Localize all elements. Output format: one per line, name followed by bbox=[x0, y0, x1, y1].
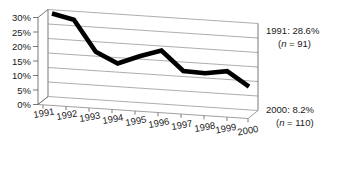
grid-line-20 bbox=[48, 39, 258, 53]
last-point-annotation-count: = 110) bbox=[284, 117, 313, 128]
depth-connector-top bbox=[38, 10, 48, 18]
x-tick-label-1996: 1996 bbox=[147, 115, 170, 130]
first-point-annotation: 1991: 28.6% (n = 91) bbox=[266, 25, 320, 49]
grid-line-30 bbox=[48, 10, 258, 24]
grid-line-5 bbox=[48, 82, 258, 96]
y-tick-label-20: 20% bbox=[12, 41, 32, 52]
x-tick-label-1999: 1999 bbox=[214, 121, 237, 136]
y-axis-tick-marks bbox=[33, 18, 38, 105]
x-tick-label-2000: 2000 bbox=[236, 123, 259, 138]
grid-line-0 bbox=[48, 97, 258, 111]
floor-right-edge bbox=[248, 111, 258, 119]
y-axis-tick-labels: 30% 25% 20% 15% 10% 5% 0% bbox=[12, 12, 32, 110]
x-tick-label-1995: 1995 bbox=[124, 113, 147, 128]
x-tick-label-1998: 1998 bbox=[193, 119, 216, 134]
y-tick-label-30: 30% bbox=[12, 12, 32, 23]
y-tick-label-0: 0% bbox=[17, 99, 31, 110]
first-point-annotation-line1: 1991: 28.6% bbox=[266, 25, 320, 36]
first-point-annotation-count: = 91) bbox=[286, 38, 311, 49]
x-axis-tick-labels: 1991 1992 1993 1994 1995 1996 1997 1998 … bbox=[32, 105, 259, 137]
last-point-annotation-line2: (n = 110) bbox=[276, 117, 314, 128]
y-tick-label-5: 5% bbox=[17, 85, 31, 96]
first-point-annotation-line2: (n = 91) bbox=[278, 38, 311, 49]
x-tick-label-1992: 1992 bbox=[55, 107, 78, 122]
x-tick-label-1994: 1994 bbox=[101, 111, 124, 126]
x-tick-label-1991: 1991 bbox=[32, 105, 55, 120]
y-tick-label-15: 15% bbox=[12, 56, 32, 67]
line-chart-svg: 30% 25% 20% 15% 10% 5% 0% bbox=[0, 0, 348, 177]
y-tick-label-25: 25% bbox=[12, 27, 32, 38]
chart-figure: 30% 25% 20% 15% 10% 5% 0% bbox=[0, 0, 348, 177]
x-tick-label-1997: 1997 bbox=[170, 117, 193, 132]
last-point-annotation: 2000: 8.2% (n = 110) bbox=[266, 104, 315, 128]
floor-left-edge bbox=[38, 97, 48, 105]
last-point-annotation-line1: 2000: 8.2% bbox=[266, 104, 315, 115]
y-tick-label-10: 10% bbox=[12, 70, 32, 81]
x-tick-label-1993: 1993 bbox=[78, 109, 101, 124]
